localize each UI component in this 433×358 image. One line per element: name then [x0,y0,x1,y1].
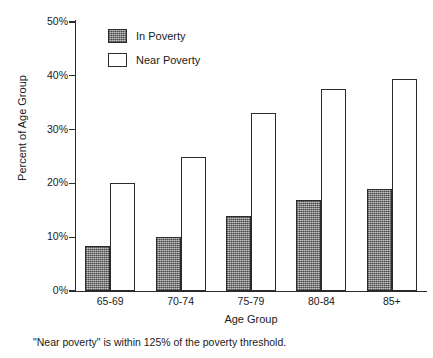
bar-80-84-in-poverty [296,200,321,291]
bar-80-84-near-poverty [321,89,346,291]
bar-85plus-near-poverty [392,79,417,292]
legend-swatch-icon [108,29,127,43]
legend-item-label: Near Poverty [136,54,200,66]
bar-65-69-near-poverty [110,183,135,291]
x-axis-title: Age Group [75,313,427,325]
chart-footnote: "Near poverty" is within 125% of the pov… [33,336,286,348]
y-tick-label: 20% [38,176,68,188]
chart-legend: In PovertyNear Poverty [108,26,200,74]
bar-85plus-in-poverty [367,189,392,291]
y-tick-label: 0% [38,284,68,296]
bar-70-74-in-poverty [156,237,181,291]
y-tick-label: 50% [38,15,68,27]
y-tick-label: 10% [38,230,68,242]
y-tick-label: 40% [38,69,68,81]
bar-75-79-near-poverty [251,113,276,291]
y-tick-label: 30% [38,123,68,135]
x-tick-label-80-84: 80-84 [286,295,356,307]
legend-item-near-poverty: Near Poverty [108,50,200,69]
legend-item-label: In Poverty [136,30,186,42]
x-tick-label-85plus: 85+ [357,295,427,307]
legend-item-in-poverty: In Poverty [108,26,200,45]
legend-swatch-icon [108,53,127,67]
x-tick-label-65-69: 65-69 [75,295,145,307]
x-tick-label-75-79: 75-79 [216,295,286,307]
bar-75-79-in-poverty [226,216,251,291]
bar-70-74-near-poverty [181,157,206,292]
y-axis-title: Percent of Age Group [16,43,28,213]
x-tick-label-70-74: 70-74 [145,295,215,307]
poverty-by-age-bar-chart: Percent of Age Group 50%40%30%20%10%0% 6… [0,0,433,358]
bar-65-69-in-poverty [85,246,110,291]
